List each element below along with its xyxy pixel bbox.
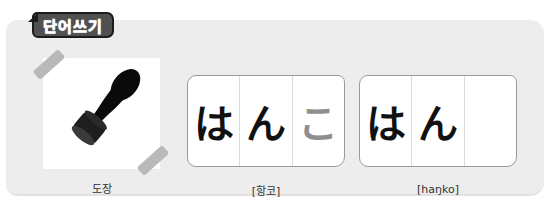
char-cell[interactable]: は: [360, 76, 412, 166]
char-cell[interactable]: は: [188, 76, 240, 166]
pronunciation-roman: [haŋko]: [398, 183, 478, 196]
stamp-icon: [43, 58, 160, 169]
trace-char-cell[interactable]: こ: [293, 76, 344, 166]
pronunciation-korean: [항코]: [236, 182, 296, 198]
writing-card-1: は ん こ: [187, 75, 345, 167]
empty-char-cell[interactable]: [465, 76, 516, 166]
writing-card-2: は ん: [359, 75, 517, 167]
word-image: [43, 58, 160, 169]
word-meaning: 도장: [72, 180, 132, 196]
char-cell[interactable]: ん: [240, 76, 292, 166]
section-badge: 단어쓰기: [32, 12, 114, 38]
section-badge-label: 단어쓰기: [43, 15, 103, 36]
char-cell[interactable]: ん: [412, 76, 464, 166]
